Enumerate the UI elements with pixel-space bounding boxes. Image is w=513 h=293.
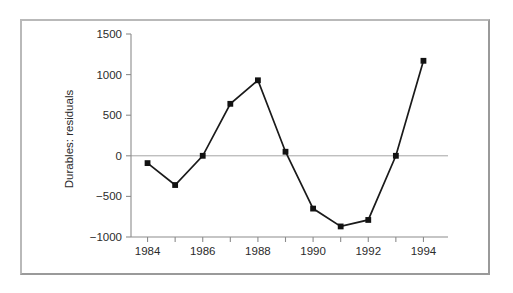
- x-axis-tick-labels: 198419861988199019921994: [135, 245, 437, 257]
- x-tick-label: 1994: [411, 245, 437, 257]
- data-point-marker: [227, 101, 233, 107]
- y-axis-title: Durables: residuals: [63, 90, 75, 189]
- data-point-marker: [338, 224, 344, 230]
- x-tick-label: 1986: [190, 245, 216, 257]
- y-tick-label: 1500: [96, 28, 122, 40]
- x-tick-label: 1990: [300, 245, 326, 257]
- x-axis-ticks: [148, 237, 424, 242]
- figure-root: Durables: residuals −1000−50005001000150…: [0, 0, 513, 293]
- data-point-marker: [393, 153, 399, 159]
- y-tick-label: −500: [96, 190, 122, 202]
- series-line-durables-residuals: [148, 61, 424, 227]
- chart-canvas: Durables: residuals −1000−50005001000150…: [0, 0, 513, 293]
- x-tick-label: 1992: [355, 245, 381, 257]
- data-point-marker: [310, 206, 316, 212]
- series-markers-durables-residuals: [145, 58, 427, 229]
- x-tick-label: 1988: [245, 245, 271, 257]
- data-point-marker: [200, 153, 206, 159]
- data-point-marker: [365, 217, 371, 223]
- y-axis-ticks: [126, 34, 131, 237]
- y-tick-label: 500: [103, 109, 122, 121]
- data-point-marker: [283, 149, 289, 155]
- data-point-marker: [421, 58, 427, 64]
- data-point-marker: [255, 77, 261, 83]
- data-point-marker: [145, 160, 151, 166]
- y-tick-label: 1000: [96, 69, 122, 81]
- y-axis-tick-labels: −1000−500050010001500: [90, 28, 122, 243]
- data-point-marker: [172, 182, 178, 188]
- y-tick-label: 0: [116, 150, 122, 162]
- y-tick-label: −1000: [90, 231, 122, 243]
- x-tick-label: 1984: [135, 245, 161, 257]
